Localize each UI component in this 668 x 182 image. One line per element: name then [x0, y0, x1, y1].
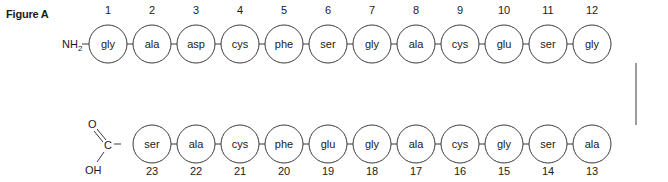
residue-position: 14: [542, 165, 554, 177]
residue-position: 17: [410, 165, 422, 177]
residue-name: ser: [540, 38, 556, 50]
residue-name: gly: [497, 138, 512, 150]
residue-name: asp: [187, 38, 205, 50]
residue-position: 2: [149, 4, 155, 16]
residue-name: gly: [585, 38, 600, 50]
residue-position: 15: [498, 165, 510, 177]
residue-node: gly1: [89, 4, 127, 63]
residue-node: ala13: [573, 125, 611, 177]
residue-position: 1: [105, 4, 111, 16]
residue-position: 11: [542, 4, 553, 16]
residue-name: glu: [497, 38, 512, 50]
residue-name: ser: [320, 38, 336, 50]
residue-position: 18: [366, 165, 378, 177]
residue-node: ser11: [529, 4, 567, 63]
residue-position: 16: [454, 165, 466, 177]
n-terminus: NH2: [62, 38, 89, 53]
residue-position: 8: [413, 4, 419, 16]
residue-position: 23: [146, 165, 158, 177]
residue-node: ala17: [397, 125, 435, 177]
residue-node: asp3: [177, 4, 215, 63]
residue-position: 6: [325, 4, 331, 16]
hydroxyl-label: OH: [85, 164, 102, 176]
residue-name: gly: [101, 38, 116, 50]
residue-node: cys16: [441, 125, 479, 177]
carbon-label: C: [104, 139, 112, 151]
residue-name: gly: [365, 38, 380, 50]
residue-name: cys: [452, 138, 469, 150]
top-row: gly1ala2asp3cys4phe5ser6gly7ala8cys9glu1…: [89, 4, 611, 63]
peptide-chain-figure: Figure A NH2 O C OH gly1ala2asp3cys4phe5…: [0, 0, 668, 182]
residue-node: glu19: [309, 125, 347, 177]
residue-position: 4: [237, 4, 243, 16]
residue-node: gly18: [353, 125, 391, 177]
residue-position: 13: [586, 165, 598, 177]
residue-node: ser6: [309, 4, 347, 63]
residue-position: 20: [278, 165, 290, 177]
residue-position: 22: [190, 165, 202, 177]
carbonyl-oxygen-label: O: [88, 118, 97, 130]
residue-name: ala: [145, 38, 161, 50]
residue-position: 3: [193, 4, 199, 16]
residue-node: ser23: [133, 125, 171, 177]
residue-node: ala2: [133, 4, 171, 63]
residue-name: ala: [585, 138, 601, 150]
residue-position: 5: [281, 4, 287, 16]
residue-position: 19: [322, 165, 334, 177]
residue-position: 12: [586, 4, 598, 16]
residue-name: ser: [144, 138, 160, 150]
double-bond-line-a: [94, 131, 103, 142]
residue-node: gly7: [353, 4, 391, 63]
n-terminus-label: NH2: [62, 38, 83, 53]
residue-node: phe20: [265, 125, 303, 177]
figure-label: Figure A: [6, 8, 49, 20]
residue-node: gly12: [573, 4, 611, 63]
residue-name: phe: [275, 38, 293, 50]
residue-node: cys9: [441, 4, 479, 63]
residue-node: phe5: [265, 4, 303, 63]
residue-position: 7: [369, 4, 375, 16]
residue-name: cys: [232, 138, 249, 150]
residue-node: glu10: [485, 4, 523, 63]
hydroxyl-bond: [97, 152, 104, 162]
c-terminus: O C OH: [85, 118, 121, 176]
residue-node: ser14: [529, 125, 567, 177]
residue-name: ser: [540, 138, 556, 150]
residue-position: 9: [457, 4, 463, 16]
residue-name: ala: [409, 38, 425, 50]
residue-node: cys4: [221, 4, 259, 63]
residue-name: glu: [321, 138, 336, 150]
residue-position: 10: [498, 4, 510, 16]
residue-node: ala8: [397, 4, 435, 63]
residue-position: 21: [234, 165, 246, 177]
residue-node: cys21: [221, 125, 259, 177]
residue-name: ala: [189, 138, 205, 150]
residue-name: ala: [409, 138, 425, 150]
peptide-chain-diagram: NH2 O C OH gly1ala2asp3cys4phe5ser6gly7a…: [0, 0, 668, 182]
bottom-row: ser23ala22cys21phe20glu19gly18ala17cys16…: [133, 125, 611, 177]
residue-name: gly: [365, 138, 380, 150]
residue-name: cys: [452, 38, 469, 50]
residue-node: gly15: [485, 125, 523, 177]
residue-name: phe: [275, 138, 293, 150]
residue-name: cys: [232, 38, 249, 50]
residue-node: ala22: [177, 125, 215, 177]
